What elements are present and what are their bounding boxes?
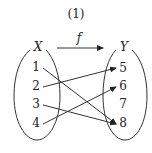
domain-element: 3 xyxy=(32,97,40,111)
function-label: f xyxy=(76,31,84,45)
mapping-arrow-4-to-6 xyxy=(43,87,116,124)
codomain-element: 6 xyxy=(119,79,127,93)
codomain-label: Y xyxy=(120,40,129,54)
domain-label: X xyxy=(33,40,43,54)
domain-element: 2 xyxy=(32,79,40,93)
domain-element: 4 xyxy=(32,116,40,130)
diagram-title: (1) xyxy=(68,7,85,21)
codomain-elements: 5 6 7 8 xyxy=(119,61,127,130)
codomain-element: 5 xyxy=(119,61,127,75)
mapping-arrow-2-to-5 xyxy=(43,68,116,87)
codomain-element: 8 xyxy=(119,116,127,130)
domain-element: 1 xyxy=(32,60,40,74)
function-mapping-diagram: (1) X Y f 1 2 3 4 5 6 7 8 xyxy=(0,0,152,153)
domain-elements: 1 2 3 4 xyxy=(32,60,40,130)
codomain-element: 7 xyxy=(119,97,127,111)
